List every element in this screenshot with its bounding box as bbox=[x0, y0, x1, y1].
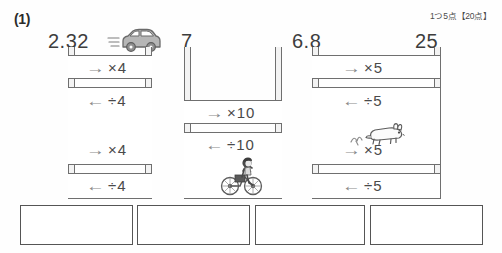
arrow-right-icon: → bbox=[86, 60, 106, 75]
arrow-right-icon: → bbox=[205, 105, 225, 120]
score-note: 1つ5点【20点】 bbox=[430, 9, 492, 21]
operation-left-4: ← ÷4 bbox=[88, 178, 127, 193]
operation-right-4: ← ÷5 bbox=[344, 178, 383, 193]
operation-right-2: ← ÷5 bbox=[344, 93, 383, 108]
operation-left-2: ← ÷4 bbox=[88, 93, 127, 108]
operation-middle-1: → ×10 bbox=[207, 105, 255, 120]
worksheet-page: (1) 1つ5点【20点】 2.32 7 6.8 25 → ×4 bbox=[0, 0, 502, 253]
rabbit-illustration bbox=[349, 123, 411, 149]
arrow-left-icon: ← bbox=[342, 93, 362, 108]
car-illustration bbox=[106, 27, 162, 53]
operation-middle-2: ← ÷10 bbox=[207, 137, 255, 152]
answer-box-3[interactable] bbox=[255, 205, 365, 245]
answer-box-2[interactable] bbox=[137, 205, 250, 245]
arrow-left-icon: ← bbox=[86, 178, 106, 193]
arrow-left-icon: ← bbox=[342, 178, 362, 193]
arrow-left-icon: ← bbox=[205, 137, 225, 152]
bicycle-illustration bbox=[218, 157, 266, 197]
arrow-right-icon: → bbox=[86, 142, 106, 157]
operation-left-1: → ×4 bbox=[88, 60, 127, 75]
operation-right-1: → ×5 bbox=[344, 60, 383, 75]
arrow-left-icon: ← bbox=[86, 93, 106, 108]
operation-left-3: → ×4 bbox=[88, 142, 127, 157]
answer-box-4[interactable] bbox=[370, 205, 483, 245]
answer-box-1[interactable] bbox=[20, 205, 133, 245]
question-number-label: (1) bbox=[14, 11, 30, 27]
arrow-right-icon: → bbox=[342, 60, 362, 75]
